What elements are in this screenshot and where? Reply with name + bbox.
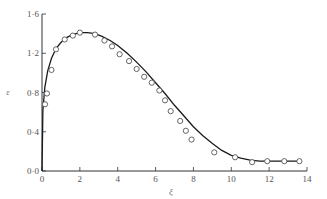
data-point — [168, 109, 173, 114]
data-point — [265, 159, 270, 164]
data-point — [70, 33, 75, 38]
x-tick-label: 12 — [265, 174, 274, 184]
data-points — [42, 30, 302, 165]
data-point — [178, 118, 183, 123]
theory-curve — [42, 33, 299, 171]
y-tick-label: 1·6 — [27, 9, 39, 19]
data-point — [297, 159, 302, 164]
x-axis-label: ξ — [169, 187, 173, 197]
axes — [42, 14, 307, 171]
data-point — [44, 91, 49, 96]
x-tick-label: 0 — [40, 174, 45, 184]
data-point — [92, 32, 97, 37]
data-point — [109, 44, 114, 49]
data-point — [149, 80, 154, 85]
data-point — [53, 47, 58, 52]
data-point — [183, 128, 188, 133]
y-tick-label: 0·8 — [27, 88, 39, 98]
data-point — [102, 38, 107, 43]
x-tick-label: 8 — [191, 174, 196, 184]
data-point — [62, 37, 67, 42]
y-axis-label: ε — [6, 87, 10, 97]
x-tick-label: 14 — [303, 174, 313, 184]
data-point — [117, 52, 122, 57]
y-tick-label: 1·2 — [27, 48, 39, 58]
data-point — [250, 160, 255, 165]
data-point — [189, 137, 194, 142]
data-point — [212, 150, 217, 155]
chart: 024681012140·00·40·81·21·6 ξ ε — [0, 0, 327, 199]
data-point — [49, 67, 54, 72]
y-tick-label: 0·0 — [27, 166, 39, 176]
data-point — [232, 155, 237, 160]
data-point — [126, 59, 131, 64]
data-point — [42, 102, 47, 107]
y-tick-label: 0·4 — [27, 127, 39, 137]
data-point — [142, 74, 147, 79]
data-point — [77, 30, 82, 35]
x-tick-label: 4 — [115, 174, 120, 184]
x-tick-label: 10 — [227, 174, 237, 184]
x-tick-label: 6 — [153, 174, 158, 184]
data-point — [134, 66, 139, 71]
x-tick-label: 2 — [78, 174, 83, 184]
data-point — [282, 159, 287, 164]
data-point — [162, 98, 167, 103]
data-point — [157, 88, 162, 93]
